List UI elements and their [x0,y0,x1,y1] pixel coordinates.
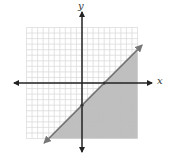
intercept-point [103,81,106,84]
intercept-point [80,104,83,107]
x-axis-label: x [157,75,163,86]
y-axis-label: y [78,0,84,11]
inequality-graph [0,0,172,164]
